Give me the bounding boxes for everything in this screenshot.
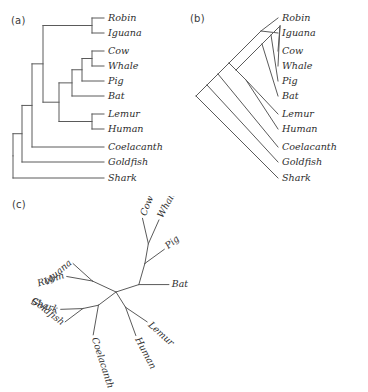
tip-label-whale: Whale — [108, 60, 139, 71]
internal-branch-to-artiodactyl-node — [139, 263, 145, 284]
panel-a-branches — [13, 18, 104, 178]
panel-b-tip-labels: RobinIguanaCowWhalePigBatLemurHumanCoela… — [281, 12, 337, 183]
panel-a-tip-labels: RobinIguanaCowWhalePigBatLemurHumanCoela… — [107, 12, 163, 183]
branch-to-cow-whale-node — [271, 26, 280, 35]
tip-label-human: Human — [281, 123, 318, 134]
tip-label-pig: Pig — [107, 75, 124, 86]
internal-branch-to-cow-whale-node — [145, 244, 148, 264]
branch-bat — [262, 44, 278, 96]
tip-label-cow: Cow — [137, 196, 155, 217]
tip-label-lemur: Lemur — [146, 318, 177, 348]
tip-label-robin: Robin — [107, 12, 136, 23]
tip-label-goldfish: Goldfish — [282, 156, 322, 167]
terminal-branch-coelacanth — [93, 305, 98, 335]
internal-branch-to-robin-iguana-node — [92, 281, 116, 292]
tip-label-lemur: Lemur — [281, 108, 315, 119]
tip-label-cow: Cow — [108, 45, 130, 56]
terminal-branch-shark — [61, 309, 83, 310]
panel-c-branches — [61, 218, 169, 335]
branch-iguana — [261, 31, 278, 33]
terminal-branch-goldfish — [65, 309, 83, 322]
tip-label-bat: Bat — [281, 90, 299, 101]
tip-label-shark: Shark — [108, 172, 137, 183]
branch-shark — [196, 96, 278, 178]
internal-branch-to-shark-goldfish-node — [83, 305, 99, 308]
tip-label-coelacanth: Coelacanth — [108, 141, 163, 152]
branch-to-pig-node — [262, 35, 271, 44]
panel-a-rectangular-cladogram: RobinIguanaCowWhalePigBatLemurHumanCoela… — [0, 0, 184, 196]
internal-branch-to-fish-node — [98, 292, 116, 305]
phylogenetic-tree-figure: (a) (b) (c) RobinIguanaCowWhalePigBatLem… — [0, 0, 368, 392]
terminal-branch-lemur — [126, 307, 148, 322]
branch-pig — [271, 35, 278, 81]
branch-to-lemur-human-node — [236, 70, 246, 80]
branch-to-mammals-node — [229, 63, 236, 70]
internal-branch-to-mammal-node — [116, 285, 139, 292]
panel-c-tip-labels: CowWhalePigBatLemurHumanCoelacanthGoldfi… — [29, 196, 188, 390]
tip-label-whale: Whale — [282, 60, 313, 71]
panel-c-unrooted-tree: CowWhalePigBatLemurHumanCoelacanthGoldfi… — [0, 196, 245, 392]
tip-label-shark: Shark — [282, 172, 311, 183]
tip-label-pig: Pig — [281, 75, 298, 86]
panel-b-slanted-cladogram: RobinIguanaCowWhalePigBatLemurHumanCoela… — [184, 0, 368, 196]
terminal-branch-cow — [143, 218, 149, 243]
tip-label-whale: Whale — [155, 196, 179, 219]
tip-label-lemur: Lemur — [107, 108, 141, 119]
branch-coelacanth — [218, 74, 278, 147]
branch-robin — [261, 18, 278, 31]
terminal-branch-pig — [145, 249, 164, 263]
tip-label-bat: Bat — [171, 278, 188, 289]
tip-label-iguana: Iguana — [107, 27, 142, 38]
tip-label-coelacanth: Coelacanth — [90, 336, 117, 390]
tip-label-goldfish: Goldfish — [108, 156, 148, 167]
branch-goldfish — [207, 85, 278, 162]
tip-label-coelacanth: Coelacanth — [282, 141, 337, 152]
tip-label-human: Human — [133, 334, 159, 370]
tip-label-robin: Robin — [281, 12, 310, 23]
terminal-branch-human — [126, 307, 136, 335]
tip-label-cow: Cow — [282, 45, 304, 56]
branch-to-robin-iguana-node — [229, 31, 261, 63]
branch-lemur — [246, 80, 278, 114]
tip-label-human: Human — [107, 123, 144, 134]
internal-branch-to-primate-node — [116, 292, 126, 307]
panel-b-branches — [196, 18, 280, 178]
tip-label-pig: Pig — [162, 233, 182, 252]
terminal-branch-whale — [148, 220, 159, 244]
branch-human — [246, 80, 278, 129]
branch-to-bat-node — [236, 44, 262, 70]
tip-label-iguana: Iguana — [281, 27, 316, 38]
tip-label-bat: Bat — [107, 90, 125, 101]
